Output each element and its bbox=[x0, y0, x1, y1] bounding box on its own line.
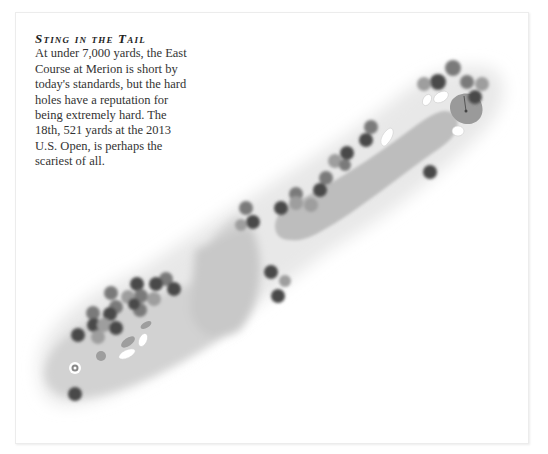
hole-map bbox=[0, 0, 548, 454]
tee-marker-icon bbox=[69, 362, 81, 374]
